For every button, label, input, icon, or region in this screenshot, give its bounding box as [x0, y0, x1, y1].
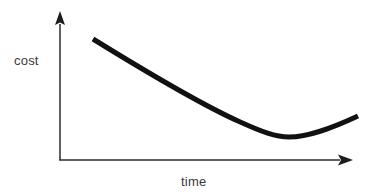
chart-canvas	[0, 0, 379, 195]
x-axis-label: time	[181, 174, 206, 189]
figure-root: cost time	[0, 0, 379, 195]
y-axis-label: cost	[14, 53, 39, 68]
